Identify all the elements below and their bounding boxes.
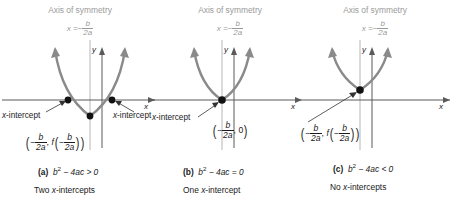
vertex-close-paren-b: ) — [244, 123, 248, 138]
vertex-f-a: f — [51, 137, 53, 147]
caption-tag-b: (b) — [183, 167, 194, 177]
vertex-open-paren-a: ( — [26, 135, 30, 150]
vertex-point-c — [356, 86, 364, 94]
x-intercept-left-text-b: -intercept — [156, 113, 190, 122]
panel-a: Axis of symmetry x =− b 2a — [0, 0, 160, 206]
caption-exp-a: 2 — [58, 165, 61, 172]
parabola-left-arrow-a — [51, 47, 60, 58]
caption-exp-b: 2 — [203, 165, 206, 172]
vertex-num1-b: b — [222, 121, 234, 130]
y-axis-arrow-b — [231, 47, 237, 55]
y-axis-name-b: y — [224, 46, 228, 54]
parabola-left-arrow-c — [328, 47, 337, 58]
parabola-right-arrow-b — [245, 47, 254, 58]
x-axis-name-a: x — [144, 103, 148, 111]
vertex-den1-c: 2a — [310, 133, 322, 143]
vertex-num1-a: b — [35, 133, 47, 142]
vertex-den2-c: 2a — [339, 133, 351, 143]
caption-tag-c: (c) — [333, 164, 343, 174]
caption-exp-c: 2 — [353, 162, 356, 169]
caption-line-b: (b) b2 − 4ac = 0 — [183, 166, 244, 176]
vertex-comma-c: , — [322, 128, 324, 138]
x-intercept-label-right-a: x-intercept — [113, 112, 151, 120]
caption-rest-a: − 4ac > 0 — [63, 167, 98, 177]
x-axis-name-c: x — [439, 103, 443, 111]
vertex-label-a: (− b 2a , f(− b 2a )) — [25, 133, 85, 152]
x-intercept-point-left-a — [65, 97, 72, 104]
y-axis-arrow-a — [99, 47, 105, 55]
parabola-left-arrow-b — [190, 47, 199, 58]
vertex-comma-a: , — [47, 137, 49, 147]
vertex-f-c: f — [326, 128, 328, 138]
x-intercept-label-left-a: x-intercept — [2, 112, 40, 120]
x-intercept-point-right-a — [109, 97, 116, 104]
x-intercept-left-text-a: -intercept — [6, 111, 40, 120]
vertex-close-paren2-c: ) — [351, 126, 355, 141]
vertex-open-paren-c: ( — [301, 126, 305, 141]
x-intercept-right-text-a: -intercept — [117, 111, 151, 120]
vertex-num2-a: b — [64, 133, 76, 142]
vertex-num2-c: b — [339, 124, 351, 133]
caption-sub-rest-b: -intercept — [205, 185, 240, 195]
parabola-right-arrow-a — [120, 47, 129, 58]
leader-c — [308, 94, 354, 122]
vertex-zero-b: 0 — [238, 125, 243, 135]
caption-sub-a: Two x-intercepts — [34, 186, 95, 194]
vertex-den2-a: 2a — [64, 142, 76, 152]
vertex-point-b — [218, 96, 226, 104]
y-axis-name-a: y — [92, 46, 96, 54]
caption-rest-b: − 4ac = 0 — [209, 167, 244, 177]
parabola-right-arrow-c — [383, 47, 392, 58]
caption-sub-count-a: Two — [34, 185, 52, 195]
vertex-comma-b: , — [234, 125, 236, 135]
vertex-num1-c: b — [310, 124, 322, 133]
vertex-open-paren2-c: ( — [329, 126, 333, 141]
graph-c — [300, 0, 457, 206]
y-axis-name-c: y — [362, 46, 366, 54]
caption-line-c: (c) b2 − 4ac < 0 — [333, 163, 393, 173]
vertex-open-paren2-a: ( — [54, 135, 58, 150]
leader-right-arrow-a — [115, 101, 122, 106]
caption-line-a: (a) b2 − 4ac > 0 — [38, 166, 98, 176]
vertex-close-paren2-a: ) — [76, 135, 80, 150]
y-axis-arrow-c — [369, 47, 375, 55]
caption-sub-count-b: One — [183, 185, 201, 195]
caption-sub-c: No x-intercepts — [330, 183, 386, 191]
vertex-den1-b: 2a — [222, 130, 234, 140]
x-intercept-label-left-b: x-intercept — [152, 114, 190, 122]
panel-b: Axis of symmetry x =− b 2a x-intercept x… — [150, 0, 305, 206]
vertex-close-paren-a: ) — [81, 135, 85, 150]
x-axis-arrow-c — [443, 97, 450, 103]
vertex-close-paren-c: ) — [356, 126, 360, 141]
caption-sub-count-c: No — [330, 182, 343, 192]
caption-sub-rest-c: -intercepts — [347, 182, 386, 192]
vertex-label-c: (− b 2a , f(− b 2a )) — [300, 124, 360, 143]
caption-rest-c: − 4ac < 0 — [358, 164, 393, 174]
caption-tag-a: (a) — [38, 167, 48, 177]
leader-arrow-c — [349, 92, 357, 98]
quadratic-discriminant-figure: Axis of symmetry x =− b 2a — [0, 0, 457, 206]
vertex-open-paren-b: ( — [213, 123, 217, 138]
caption-sub-rest-a: -intercepts — [56, 185, 95, 195]
vertex-den1-a: 2a — [35, 142, 47, 152]
vertex-label-b: (− b 2a , 0) — [212, 121, 248, 140]
leader-left-arrow-a — [59, 101, 66, 106]
caption-sub-b: One x-intercept — [183, 186, 240, 194]
x-axis-name-b: x — [291, 103, 295, 111]
vertex-point-a — [87, 113, 94, 120]
panel-c: Axis of symmetry x =− b 2a x y (− b — [300, 0, 457, 206]
